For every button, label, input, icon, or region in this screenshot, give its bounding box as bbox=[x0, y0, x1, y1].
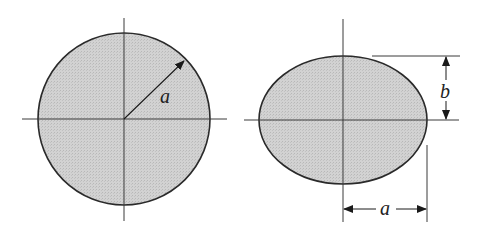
a-label: a bbox=[380, 197, 390, 219]
radius-label: a bbox=[160, 85, 170, 107]
ellipse-section: b a bbox=[244, 19, 460, 222]
circle-section: a bbox=[22, 18, 227, 221]
cross-section-diagram: a b a bbox=[0, 0, 480, 238]
b-label: b bbox=[440, 80, 450, 102]
